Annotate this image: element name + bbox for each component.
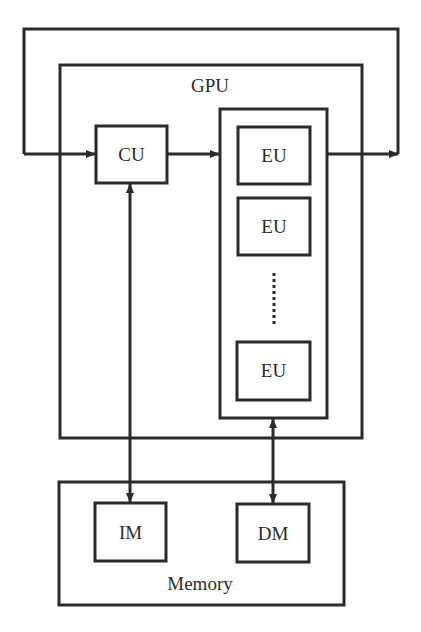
memory-label: Memory bbox=[140, 574, 260, 593]
im-label: IM bbox=[95, 523, 166, 542]
gpu-box bbox=[60, 65, 362, 438]
gpu-architecture-diagram: GPU CU EU EU EU IM DM Memory bbox=[0, 0, 421, 632]
cu-label: CU bbox=[96, 145, 167, 164]
eu-label-3: EU bbox=[237, 361, 310, 380]
eu-label-1: EU bbox=[238, 146, 310, 165]
eu-label-2: EU bbox=[238, 217, 310, 236]
dm-label: DM bbox=[237, 524, 309, 543]
gpu-label: GPU bbox=[170, 76, 250, 95]
